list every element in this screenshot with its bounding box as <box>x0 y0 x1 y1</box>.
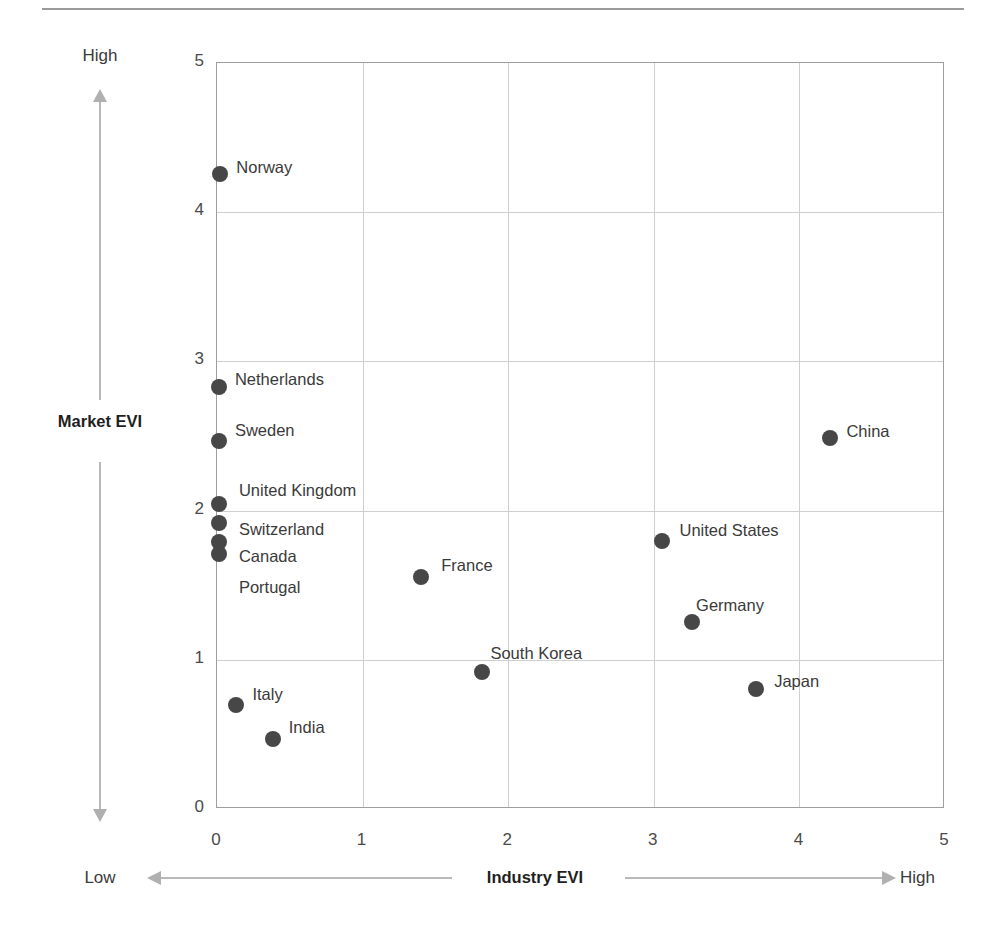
data-point-label: Netherlands <box>235 370 324 389</box>
x-axis-right-arrow-icon <box>625 877 883 879</box>
data-point-label: South Korea <box>490 644 582 663</box>
data-point-label: China <box>846 422 889 441</box>
y-axis-tick-label: 0 <box>164 797 204 817</box>
data-point-label: Italy <box>252 685 282 704</box>
y-axis-down-arrow-icon <box>99 462 101 810</box>
data-point-label: Portugal <box>239 578 300 597</box>
x-axis-tick-label: 2 <box>487 830 527 850</box>
header-rule <box>42 8 964 10</box>
data-point[interactable] <box>211 515 227 531</box>
y-axis-title: Market EVI <box>20 412 180 431</box>
y-axis-tick-label: 1 <box>164 648 204 668</box>
data-point-label: Norway <box>236 158 292 177</box>
data-point-label: Canada <box>239 547 297 566</box>
gridline-vertical <box>654 63 655 807</box>
y-axis-tick-label: 2 <box>164 499 204 519</box>
data-point[interactable] <box>654 533 670 549</box>
x-axis-high-label: High <box>900 868 980 888</box>
y-axis-tick-label: 5 <box>164 51 204 71</box>
data-point[interactable] <box>211 433 227 449</box>
gridline-horizontal <box>217 511 943 512</box>
x-axis-tick-label: 1 <box>342 830 382 850</box>
x-axis-tick-label: 0 <box>196 830 236 850</box>
data-point-label: United States <box>680 521 779 540</box>
x-axis-low-label: Low <box>60 868 140 888</box>
x-axis-tick-label: 4 <box>778 830 818 850</box>
gridline-horizontal <box>217 361 943 362</box>
gridline-vertical <box>799 63 800 807</box>
data-point-label: Switzerland <box>239 520 324 539</box>
x-axis-tick-label: 5 <box>924 830 964 850</box>
data-point-label: India <box>289 718 325 737</box>
data-point[interactable] <box>748 681 764 697</box>
data-point-label: Germany <box>696 596 764 615</box>
data-point[interactable] <box>211 496 227 512</box>
y-axis-high-label: High <box>64 46 136 66</box>
x-axis-tick-label: 3 <box>633 830 673 850</box>
data-point[interactable] <box>413 569 429 585</box>
x-axis-left-arrow-icon <box>160 877 452 879</box>
data-point[interactable] <box>684 614 700 630</box>
y-axis-tick-label: 3 <box>164 349 204 369</box>
data-point-label: Japan <box>774 672 819 691</box>
data-point-label: France <box>441 556 492 575</box>
y-axis-up-arrow-icon <box>99 100 101 400</box>
gridline-vertical <box>508 63 509 807</box>
x-axis-title: Industry EVI <box>455 868 615 887</box>
data-point-label: Sweden <box>235 421 295 440</box>
gridline-vertical <box>363 63 364 807</box>
y-axis-tick-label: 4 <box>164 200 204 220</box>
gridline-horizontal <box>217 212 943 213</box>
data-point-label: United Kingdom <box>239 481 356 500</box>
